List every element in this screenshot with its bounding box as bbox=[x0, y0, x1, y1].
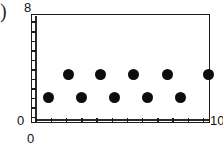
data-point bbox=[95, 69, 106, 80]
data-point bbox=[76, 92, 87, 103]
data-point bbox=[203, 69, 214, 80]
data-point bbox=[109, 92, 120, 103]
data-point bbox=[63, 69, 74, 80]
data-point bbox=[175, 92, 186, 103]
data-point bbox=[142, 92, 153, 103]
data-point bbox=[128, 69, 139, 80]
data-point bbox=[162, 69, 173, 80]
figure-root: ) 8 0 0 10 bbox=[0, 0, 223, 151]
scatter-points-layer bbox=[0, 0, 223, 151]
data-point bbox=[43, 92, 54, 103]
